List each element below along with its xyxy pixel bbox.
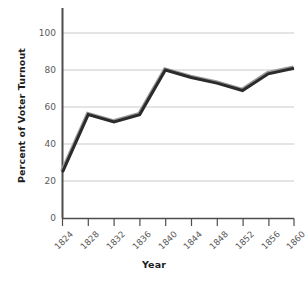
y-tick-label-60: 60 <box>28 102 56 112</box>
series-line-shadow <box>62 67 294 171</box>
y-tick-label-40: 40 <box>28 139 56 149</box>
y-tick-label-0: 0 <box>28 213 56 223</box>
y-tick-label-100: 100 <box>28 28 56 38</box>
gridlines <box>62 33 294 181</box>
y-tick-label-20: 20 <box>28 176 56 186</box>
x-tick-marks <box>63 219 295 227</box>
x-axis-title: Year <box>0 259 308 270</box>
voter-turnout-line-chart: 100 80 60 40 20 0 Percent of Voter Turno… <box>0 0 308 281</box>
axes <box>62 8 294 219</box>
series-line <box>63 68 295 172</box>
y-tick-label-80: 80 <box>28 65 56 75</box>
